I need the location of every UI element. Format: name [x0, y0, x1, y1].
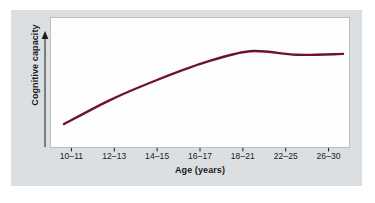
figure-panel: Cognitive capacity 10–11 12–13 14–15 16–… — [11, 10, 362, 186]
x-tick-label: 12–13 — [93, 150, 136, 164]
x-axis-title: Age (years) — [50, 165, 350, 175]
y-axis-title: Cognitive capacity — [30, 15, 40, 115]
x-axis-tick-labels: 10–11 12–13 14–15 16–17 18–21 22–25 26–3… — [50, 150, 350, 164]
x-tick-label: 22–25 — [264, 150, 307, 164]
plot-area — [50, 17, 350, 148]
x-tick-label: 26–30 — [307, 150, 350, 164]
y-axis-arrow-icon — [40, 31, 50, 147]
x-tick-label: 18–21 — [221, 150, 264, 164]
cognitive-capacity-curve — [51, 18, 351, 149]
x-tick-label: 14–15 — [136, 150, 179, 164]
x-tick-label: 16–17 — [179, 150, 222, 164]
x-tick-label: 10–11 — [50, 150, 93, 164]
